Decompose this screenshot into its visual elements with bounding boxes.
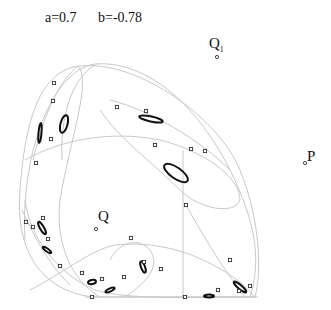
square-marker	[115, 105, 118, 108]
orbit-loop-4	[161, 160, 190, 185]
square-marker	[189, 147, 192, 150]
square-marker	[34, 161, 37, 164]
curve-cross-2	[110, 100, 230, 170]
square-marker	[58, 264, 61, 267]
square-marker	[122, 275, 125, 278]
phase-diagram	[0, 0, 331, 310]
curve-diagonal	[186, 205, 245, 297]
label-P-text: P	[307, 148, 315, 164]
label-Q1-text: Q	[209, 35, 220, 51]
curve-arc-2	[33, 66, 100, 297]
orbit-loop-3	[139, 114, 164, 124]
square-marker	[31, 225, 34, 228]
square-marker	[216, 288, 219, 291]
square-marker	[159, 267, 162, 270]
square-marker	[90, 295, 93, 298]
orbit-loop-5	[37, 221, 47, 235]
point-Q	[94, 227, 97, 230]
square-marker	[184, 203, 187, 206]
square-marker	[129, 236, 132, 239]
square-marker	[183, 295, 186, 298]
square-marker	[100, 277, 103, 280]
square-marker	[228, 258, 231, 261]
square-marker	[41, 216, 44, 219]
orbit-loop-7	[88, 279, 97, 284]
orbit-loop-6	[42, 246, 52, 254]
square-marker	[203, 149, 206, 152]
point-Q1	[215, 55, 218, 58]
label-P: P	[307, 148, 315, 165]
square-marker	[153, 143, 156, 146]
square-marker	[51, 99, 54, 102]
square-marker	[46, 237, 49, 240]
marker-group	[24, 81, 251, 298]
square-marker	[52, 81, 55, 84]
square-marker	[49, 137, 52, 140]
label-Q-text: Q	[98, 208, 109, 224]
square-marker	[142, 260, 145, 263]
square-marker	[248, 284, 251, 287]
label-Q: Q	[98, 208, 109, 225]
orbit-loop-10	[204, 295, 214, 298]
square-marker	[144, 109, 147, 112]
curve-bottom-arc	[110, 243, 154, 297]
square-marker	[80, 271, 83, 274]
label-Q1: Q1	[209, 35, 224, 54]
square-marker	[237, 289, 240, 292]
orbit-loop-8	[105, 287, 115, 294]
square-marker	[24, 220, 27, 223]
label-Q1-subscript: 1	[220, 45, 224, 54]
